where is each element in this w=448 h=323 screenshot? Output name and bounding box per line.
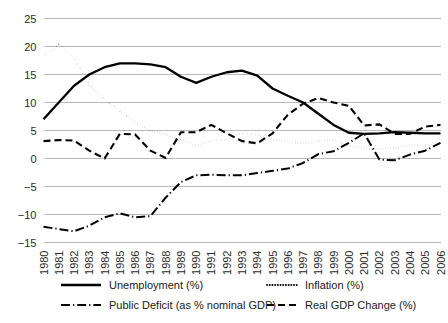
x-tick-label-2006: 2006 [435, 251, 447, 275]
x-tick-label-2005: 2005 [419, 251, 431, 275]
x-tick-label-1995: 1995 [267, 251, 279, 275]
y-tick-label: 5 [30, 125, 36, 137]
x-tick-label-2003: 2003 [389, 251, 401, 275]
data-series [44, 45, 441, 231]
series-line-real-gdp-change [44, 98, 441, 158]
legend-item-unemployment[interactable]: Unemployment (%) [61, 279, 203, 291]
line-chart: 2520151050−5−10−15 198019811982198319841… [0, 0, 448, 323]
y-tick-label: −15 [18, 237, 37, 249]
legend-item-inflation[interactable]: Inflation (%) [267, 279, 364, 291]
x-tick-label-2002: 2002 [373, 251, 385, 275]
x-tick-label-1999: 1999 [328, 251, 340, 275]
gridlines [44, 19, 441, 243]
y-tick-label: −10 [18, 209, 37, 221]
y-tick-label: 25 [24, 13, 36, 25]
series-line-unemployment [44, 63, 441, 134]
y-tick-label: 15 [24, 69, 36, 81]
y-tick-label: 10 [24, 97, 36, 109]
x-tick-label-1982: 1982 [68, 251, 80, 275]
legend-label-inflation: Inflation (%) [305, 279, 364, 291]
x-tick-label-1994: 1994 [251, 251, 263, 275]
x-tick-label-1984: 1984 [99, 251, 111, 275]
x-tick-label-1987: 1987 [144, 251, 156, 275]
legend-label-public-deficit-as-nominal-gdp: Public Deficit (as % nominal GDP) [109, 299, 276, 311]
x-tick-label-1989: 1989 [175, 251, 187, 275]
x-tick-label-2004: 2004 [404, 251, 416, 275]
x-tick-label-1991: 1991 [205, 251, 217, 275]
y-axis-tick-labels: 2520151050−5−10−15 [18, 13, 37, 249]
y-tick-label: 0 [30, 153, 36, 165]
x-tick-label-1986: 1986 [129, 251, 141, 275]
legend-item-real-gdp-change[interactable]: Real GDP Change (%) [267, 299, 416, 311]
x-tick-label-1996: 1996 [282, 251, 294, 275]
x-tick-label-1993: 1993 [236, 251, 248, 275]
series-line-public-deficit-as-nominal-gdp [44, 133, 441, 231]
x-tick-label-1983: 1983 [83, 251, 95, 275]
x-tick-label-2001: 2001 [358, 251, 370, 275]
x-tick-label-2000: 2000 [343, 251, 355, 275]
y-tick-label: 20 [24, 41, 36, 53]
x-axis-tick-labels: 1980198119821983198419851986198719881989… [38, 251, 447, 275]
legend-label-unemployment: Unemployment (%) [109, 279, 203, 291]
x-tick-label-1980: 1980 [38, 251, 50, 275]
x-tick-label-1992: 1992 [221, 251, 233, 275]
x-tick-label-1998: 1998 [312, 251, 324, 275]
x-tick-label-1988: 1988 [160, 251, 172, 275]
y-tick-label: −5 [24, 181, 37, 193]
chart-legend: Unemployment (%)Inflation (%)Public Defi… [61, 279, 416, 311]
x-tick-label-1990: 1990 [190, 251, 202, 275]
chart-container: 2520151050−5−10−15 198019811982198319841… [0, 0, 448, 323]
legend-item-public-deficit-as-nominal-gdp[interactable]: Public Deficit (as % nominal GDP) [61, 299, 276, 311]
x-tick-label-1985: 1985 [114, 251, 126, 275]
legend-label-real-gdp-change: Real GDP Change (%) [305, 299, 416, 311]
x-tick-label-1981: 1981 [53, 251, 65, 275]
x-tick-label-1997: 1997 [297, 251, 309, 275]
